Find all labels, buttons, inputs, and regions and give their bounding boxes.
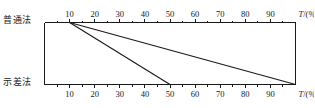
plot-frame (45, 23, 296, 85)
tick-label-bottom-axis-60: 60 (191, 89, 200, 99)
tick-label-top-axis-50: 50 (166, 9, 175, 19)
tick-label-bottom-axis-70: 70 (216, 89, 225, 99)
transmittance-comparison-figure: 普通法 示差法 10203040506070809010203040506070… (0, 0, 314, 108)
tick-label-top-axis-80: 80 (241, 9, 250, 19)
axis-title-bottom-axis: T/(%) (299, 89, 315, 99)
tick-label-top-axis-20: 20 (90, 9, 99, 19)
mapping-line-1 (70, 23, 170, 85)
tick-label-bottom-axis-90: 90 (266, 89, 275, 99)
mapping-line-2 (70, 23, 296, 85)
tick-label-bottom-axis-80: 80 (241, 89, 250, 99)
tick-label-bottom-axis-20: 20 (90, 89, 99, 99)
tick-label-bottom-axis-30: 30 (116, 89, 125, 99)
tick-label-top-axis-30: 30 (116, 9, 125, 19)
plot-area: 102030405060708090102030405060708090 T/(… (0, 0, 314, 108)
mapping-lines (70, 23, 296, 85)
tick-label-top-axis-70: 70 (216, 9, 225, 19)
axis-ticks (57, 19, 283, 88)
tick-label-top-axis-10: 10 (65, 9, 74, 19)
tick-label-top-axis-60: 60 (191, 9, 200, 19)
axis-titles: T/(%)T/(%) (299, 9, 315, 99)
axis-title-top-axis: T/(%) (299, 9, 315, 19)
tick-label-bottom-axis-50: 50 (166, 89, 175, 99)
tick-label-top-axis-40: 40 (141, 9, 150, 19)
tick-label-bottom-axis-10: 10 (65, 89, 74, 99)
tick-label-top-axis-90: 90 (266, 9, 275, 19)
tick-label-bottom-axis-40: 40 (141, 89, 150, 99)
